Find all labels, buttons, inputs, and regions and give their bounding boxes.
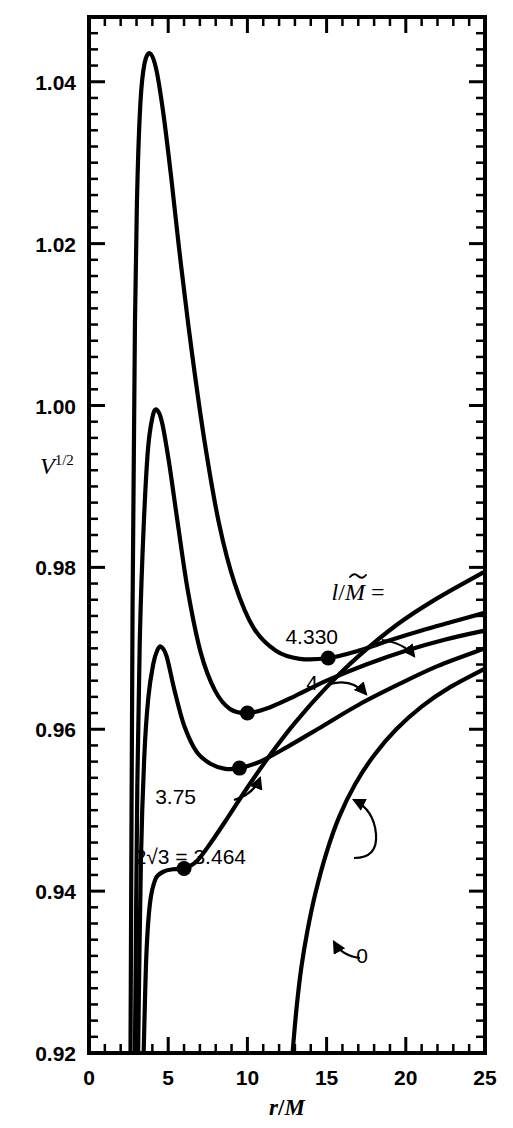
- legend-title-text: l/M =: [332, 579, 385, 605]
- curve-label-0: 0: [356, 944, 368, 967]
- marker-3.75: [232, 761, 247, 776]
- x-tick-label: 0: [83, 1066, 95, 1089]
- marker-4: [240, 706, 255, 721]
- y-tick-label: 1.00: [35, 395, 76, 418]
- x-tick-label: 25: [473, 1066, 497, 1089]
- y-tick-label: 0.96: [35, 718, 76, 741]
- y-tick-label: 0.98: [35, 556, 76, 579]
- y-tick-label: 0.92: [35, 1042, 76, 1065]
- y-tick-label: 0.94: [35, 880, 76, 903]
- curve-label-4.330: 4.330: [285, 625, 338, 648]
- x-tick-label: 15: [315, 1066, 339, 1089]
- x-tick-label: 10: [236, 1066, 259, 1089]
- marker-4.330: [321, 651, 336, 666]
- chart-background: [0, 0, 513, 1128]
- x-axis-title: r/M: [269, 1095, 306, 1120]
- curve-label-2√3 = 3.464: 2√3 = 3.464: [135, 845, 247, 868]
- curve-label-4: 4: [306, 671, 318, 694]
- x-tick-label: 5: [162, 1066, 174, 1089]
- x-tick-label: 20: [394, 1066, 417, 1089]
- y-tick-label: 1.02: [35, 233, 76, 256]
- legend-title: l/M =: [332, 574, 385, 605]
- chart-svg: 0510152025 0.920.940.960.981.001.021.04 …: [0, 0, 513, 1128]
- y-tick-label: 1.04: [35, 71, 76, 94]
- curve-label-3.75: 3.75: [155, 785, 196, 808]
- effective-potential-chart: 0510152025 0.920.940.960.981.001.021.04 …: [0, 0, 513, 1128]
